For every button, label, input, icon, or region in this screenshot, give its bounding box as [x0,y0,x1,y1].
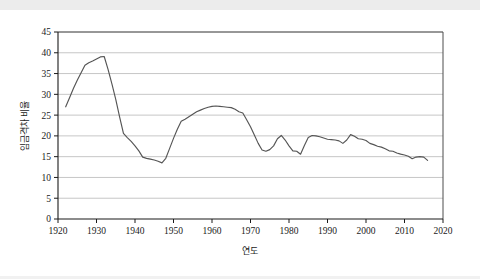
y-tick-label-40: 40 [42,48,52,58]
x-tick-label-1930: 1930 [87,226,106,236]
x-tick-label-2000: 2000 [357,226,376,236]
y-tick-label-25: 25 [42,111,52,121]
x-tick-label-2010: 2010 [395,226,414,236]
y-tick-label-30: 30 [42,90,52,100]
y-axis-title: 임금격차 비율 [19,101,30,152]
y-tick-label-0: 0 [46,214,51,224]
x-axis: 1920193019401950196019701980199020002010… [49,219,453,236]
x-tick-label-1970: 1970 [241,226,260,236]
x-tick-label-1990: 1990 [318,226,337,236]
plot-background [58,32,443,219]
y-tick-label-20: 20 [42,131,52,141]
y-tick-label-10: 10 [42,173,52,183]
y-tick-label-5: 5 [46,194,51,204]
y-axis: 051015202530354045 [42,27,59,224]
figure-container: 051015202530354045 192019301940195019601… [0,0,480,279]
y-tick-label-15: 15 [42,152,52,162]
line-chart: 051015202530354045 192019301940195019601… [0,0,480,279]
y-tick-label-45: 45 [42,27,52,37]
x-tick-label-1980: 1980 [280,226,299,236]
x-tick-label-1950: 1950 [164,226,183,236]
x-tick-label-1940: 1940 [126,226,145,236]
x-axis-title: 연도 [242,246,258,256]
x-tick-label-1920: 1920 [49,226,68,236]
y-tick-label-35: 35 [42,69,52,79]
x-tick-label-1960: 1960 [203,226,222,236]
x-tick-label-2020: 2020 [434,226,453,236]
